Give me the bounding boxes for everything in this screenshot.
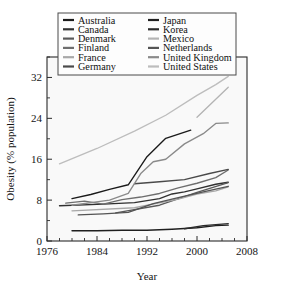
y-axis-title: Obesity (% population) [4, 97, 17, 201]
y-tick-label: 16 [31, 153, 43, 165]
y-tick-label: 8 [37, 194, 43, 206]
legend-label-germany: Germany [78, 61, 117, 72]
plot-background [47, 57, 247, 241]
legend-label-united-states: United States [163, 61, 218, 72]
y-tick-label: 0 [37, 235, 43, 247]
y-axis-tick-labels: 08162432 [31, 71, 43, 247]
chart-canvas: 19761984199220002008 08162432 Year Obesi… [0, 0, 303, 288]
chart-legend: AustraliaCanadaDenmarkFinlandFranceGerma… [58, 13, 236, 75]
x-tick-label: 2008 [236, 245, 259, 257]
x-tick-label: 1984 [86, 245, 109, 257]
y-tick-label: 32 [31, 71, 42, 83]
obesity-line-chart-figure: 19761984199220002008 08162432 Year Obesi… [0, 0, 303, 288]
y-tick-label: 24 [31, 112, 43, 124]
x-tick-label: 2000 [186, 245, 209, 257]
x-axis-tick-labels: 19761984199220002008 [36, 245, 259, 257]
x-axis-title: Year [137, 270, 158, 282]
x-tick-label: 1992 [136, 245, 158, 257]
